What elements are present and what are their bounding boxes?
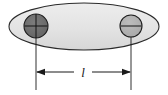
diagram-container: l bbox=[0, 0, 168, 95]
dimension-label: l bbox=[81, 65, 85, 80]
left-mass bbox=[24, 14, 48, 38]
diagram-canvas: l bbox=[0, 0, 168, 95]
right-mass bbox=[120, 15, 142, 37]
